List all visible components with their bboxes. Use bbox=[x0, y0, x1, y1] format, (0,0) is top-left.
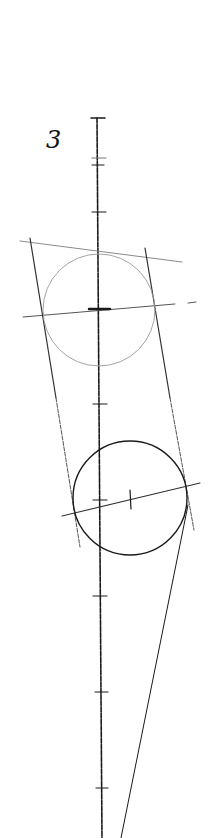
vertical-axis bbox=[97, 118, 102, 838]
construction-drawing bbox=[0, 0, 217, 838]
figure-number: 3 bbox=[46, 128, 61, 152]
upper-circle-group bbox=[20, 238, 196, 398]
sketch-canvas: 3 bbox=[0, 0, 217, 838]
lower-circle-group bbox=[56, 398, 200, 838]
